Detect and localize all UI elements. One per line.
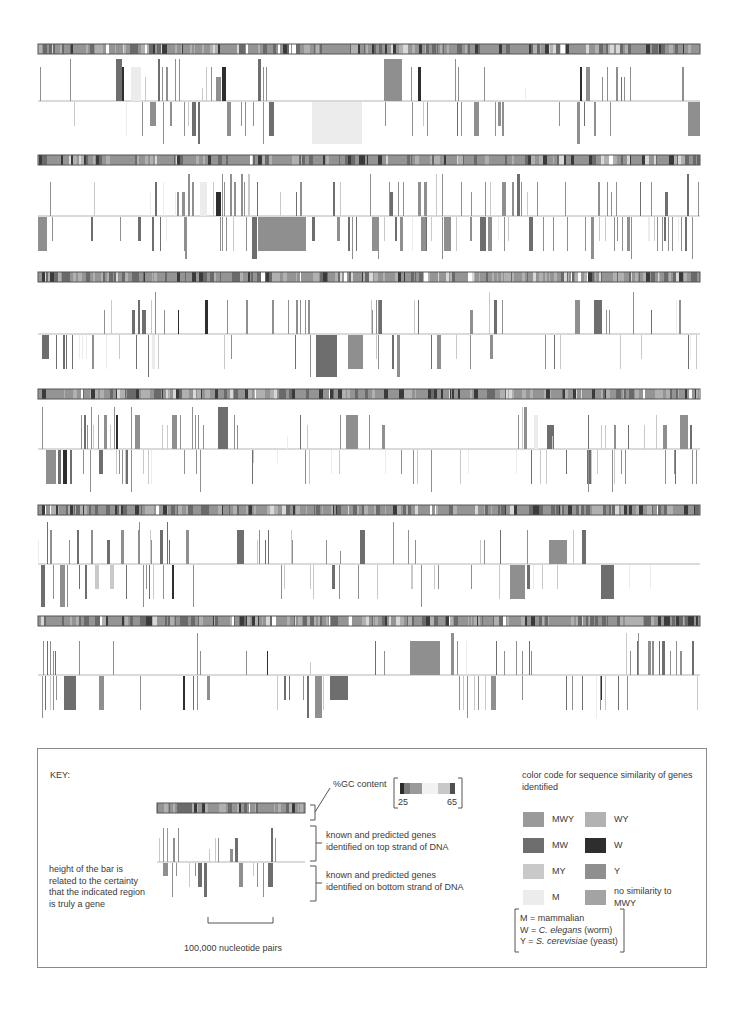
- gene-bar: [86, 335, 87, 359]
- gene-bar: [172, 415, 177, 449]
- gene-bar: [384, 651, 385, 675]
- gene-bar: [601, 565, 614, 599]
- gene-bar: [178, 310, 179, 334]
- bottom-strand-description: known and predicted genes identified on …: [326, 870, 464, 893]
- gene-bar: [586, 67, 590, 101]
- bottom-strand-genes: [46, 450, 697, 492]
- gene-bar: [510, 565, 525, 599]
- gene-bar: [549, 540, 567, 564]
- gene-bar: [248, 174, 250, 216]
- gene-bar: [222, 217, 223, 251]
- gene-bar: [296, 300, 298, 334]
- gene-bar: [352, 217, 353, 259]
- gene-bar: [64, 676, 76, 710]
- gene-bar: [42, 407, 43, 449]
- gene-bar: [438, 565, 439, 589]
- gene-bar: [277, 450, 278, 463]
- gene-bar: [340, 182, 341, 216]
- gene-bar: [253, 102, 254, 126]
- gene-bar: [163, 565, 164, 599]
- gene-bar: [617, 217, 618, 241]
- gene-bar: [470, 217, 472, 241]
- gene-bar: [263, 67, 264, 101]
- gene-bar: [676, 641, 677, 675]
- gene-bar: [169, 540, 170, 564]
- gene-bar: [411, 565, 413, 589]
- legend-label-my: MY: [552, 866, 566, 878]
- gene-bar: [47, 522, 48, 564]
- gene-bar: [601, 425, 602, 449]
- gene-bar: [63, 335, 65, 369]
- gene-bar: [494, 300, 497, 334]
- gene-bar: [375, 641, 376, 675]
- gene-bar: [688, 335, 689, 369]
- gene-bar: [131, 67, 141, 101]
- gene-bar: [152, 335, 155, 369]
- gene-bar: [434, 565, 435, 589]
- gene-bar: [188, 174, 190, 216]
- gene-bar: [91, 530, 93, 564]
- legend-swatch-y: [585, 864, 606, 879]
- gene-bar: [79, 641, 80, 675]
- gene-bar: [289, 676, 290, 700]
- gene-bar: [378, 335, 379, 369]
- gene-bar: [531, 450, 532, 484]
- gene-bar: [257, 182, 258, 216]
- gc-content-strip: [38, 505, 700, 515]
- gene-bar: [192, 407, 193, 449]
- gene-bar: [390, 192, 393, 216]
- gene-bar: [516, 641, 517, 675]
- gene-bar: [573, 530, 574, 564]
- gene-bar: [442, 217, 443, 259]
- gene-bar: [218, 407, 228, 449]
- gene-bar: [480, 540, 481, 564]
- gene-bar: [138, 217, 141, 241]
- gene-bar: [200, 651, 201, 675]
- gene-bar: [287, 436, 288, 449]
- gene-bar: [227, 102, 231, 136]
- gene-bar: [690, 335, 691, 359]
- gene-bar: [227, 300, 228, 334]
- gene-bar: [372, 310, 373, 334]
- gene-bar: [540, 450, 541, 484]
- gene-bar: [601, 676, 602, 700]
- gene-bar: [316, 335, 337, 377]
- gene-bar: [184, 102, 185, 136]
- gene-bar: [98, 415, 99, 449]
- gene-bar: [495, 102, 496, 136]
- gene-bar: [308, 300, 310, 334]
- gene-bar: [437, 335, 441, 369]
- gene-bar: [77, 530, 79, 564]
- gene-bar: [496, 641, 497, 675]
- gene-bar: [305, 300, 306, 334]
- gc-content-strip: [38, 44, 700, 54]
- gene-bar: [696, 335, 697, 369]
- gene-bar: [66, 335, 67, 369]
- gene-bar: [94, 182, 95, 216]
- gene-bar: [136, 335, 137, 369]
- gene-bar: [431, 217, 432, 241]
- gene-bar: [626, 633, 627, 675]
- gene-bar: [408, 530, 409, 564]
- gene-bar: [607, 67, 608, 101]
- gene-bar: [599, 217, 600, 241]
- legend-label-none: no similarity to MWY: [614, 886, 674, 909]
- gene-bar: [163, 102, 164, 144]
- gene-bar: [463, 676, 464, 710]
- gene-bar: [611, 192, 612, 216]
- gene-bar: [313, 565, 314, 599]
- gene-bar: [38, 540, 39, 564]
- gene-bar: [376, 335, 377, 359]
- gene-bar: [56, 335, 57, 369]
- gene-bar: [379, 300, 382, 334]
- gene-bar: [490, 335, 493, 359]
- gene-bar: [552, 436, 553, 449]
- gene-bar: [153, 565, 154, 599]
- gene-bar: [116, 59, 122, 101]
- gene-bar: [559, 102, 560, 126]
- gene-bar: [427, 102, 428, 136]
- gene-bar: [197, 633, 198, 675]
- gene-bar: [41, 565, 45, 607]
- gene-bar: [591, 217, 594, 259]
- bottom-strand-genes: [38, 217, 693, 259]
